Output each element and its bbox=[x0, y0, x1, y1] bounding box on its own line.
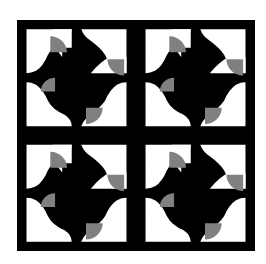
quilt-pattern bbox=[0, 0, 266, 264]
